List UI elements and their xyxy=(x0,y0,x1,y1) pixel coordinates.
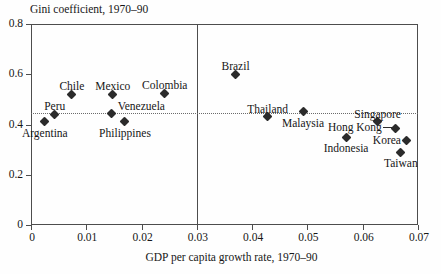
y-tick-label: 0.8 xyxy=(9,17,23,29)
data-point-label: Korea xyxy=(373,134,401,146)
x-tick: 0.06 xyxy=(363,225,364,230)
x-tick-label: 0.04 xyxy=(243,231,263,243)
data-point-label: Venezuela xyxy=(118,100,165,112)
y-axis-title: Gini coefficient, 1970–90 xyxy=(30,2,148,16)
data-point-marker xyxy=(341,132,351,142)
data-point-marker xyxy=(40,117,50,127)
data-point-label: Argentina xyxy=(22,127,68,139)
x-tick-label: 0.06 xyxy=(354,231,374,243)
label-leader-line xyxy=(383,127,395,128)
data-point-marker xyxy=(120,117,130,127)
x-tick-label: 0 xyxy=(29,231,35,243)
data-point-label: Taiwan xyxy=(384,157,418,169)
scatter-plot-figure: Gini coefficient, 1970–90 00.20.40.60.8 … xyxy=(0,0,441,274)
data-point-marker xyxy=(391,123,401,133)
y-tick-label: 0 xyxy=(17,218,23,230)
y-tick-label: 0.2 xyxy=(9,168,23,180)
x-tick: 0.03 xyxy=(197,225,198,230)
y-tick-label: 0.6 xyxy=(9,67,23,79)
data-point-label: Indonesia xyxy=(324,142,369,154)
data-point-marker xyxy=(402,136,412,146)
x-tick: 0.01 xyxy=(86,225,87,230)
x-tick: 0 xyxy=(31,225,32,230)
y-tick: 0.8 xyxy=(26,24,31,25)
y-tick: 0.6 xyxy=(26,74,31,75)
data-point-marker xyxy=(298,107,308,117)
data-point-label: Colombia xyxy=(142,79,187,91)
x-tick: 0.07 xyxy=(418,225,419,230)
x-tick: 0.02 xyxy=(142,225,143,230)
data-point-label: Singapore xyxy=(354,108,401,120)
x-tick-label: 0.03 xyxy=(188,231,208,243)
data-point-label: Chile xyxy=(59,80,84,92)
plot-area: 00.20.40.60.8 00.010.020.030.040.050.060… xyxy=(31,24,418,225)
vertical-divider-line xyxy=(197,24,198,225)
data-point-label: Thailand xyxy=(247,103,288,115)
data-point-label: Peru xyxy=(44,100,65,112)
x-tick-label: 0.02 xyxy=(133,231,153,243)
y-tick-label: 0.4 xyxy=(9,118,23,130)
x-tick-label: 0.05 xyxy=(298,231,318,243)
x-tick-label: 0.07 xyxy=(409,231,429,243)
data-point-marker xyxy=(396,147,406,157)
data-point-label: Malaysia xyxy=(282,117,324,129)
data-point-label: Mexico xyxy=(95,80,130,92)
data-point-marker xyxy=(107,108,117,118)
x-tick: 0.05 xyxy=(307,225,308,230)
x-tick-label: 0.01 xyxy=(77,231,97,243)
y-tick: 0.2 xyxy=(26,175,31,176)
y-tick: 0.4 xyxy=(26,125,31,126)
data-point-label: Philippines xyxy=(99,127,151,139)
data-point-label: Brazil xyxy=(221,60,249,72)
x-tick: 0.04 xyxy=(252,225,253,230)
x-axis-title: GDP per capita growth rate, 1970–90 xyxy=(0,250,441,264)
